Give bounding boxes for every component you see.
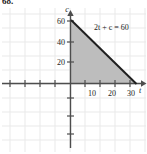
y-axis-label: c	[65, 5, 69, 14]
x-axis-arrowhead	[141, 80, 147, 87]
x-tick-label-30: 30	[127, 89, 135, 98]
x-tick-label-10: 10	[88, 89, 96, 98]
x-tick-label-20: 20	[108, 89, 116, 98]
coordinate-plot: 10 20 30 20 40 60 t c 2t + c = 60	[0, 0, 147, 154]
x-axis-label: t	[139, 86, 142, 95]
figure-container: 68.	[0, 0, 147, 154]
y-tick-label-20: 20	[57, 58, 65, 67]
equation-annotation: 2t + c = 60	[94, 23, 129, 32]
y-tick-label-60: 60	[57, 17, 65, 26]
y-tick-label-40: 40	[57, 38, 65, 47]
